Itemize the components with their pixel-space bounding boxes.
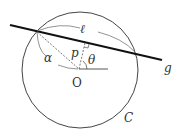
label-ell: ℓ [80,22,85,36]
label-origin: O [72,76,82,90]
arc-ell-left [37,26,80,31]
geometry-diagram: ℓ g p θ α O C [0,0,179,137]
label-theta: θ [88,53,96,67]
theta-arc [83,61,87,69]
label-alpha: α [44,51,52,65]
line-g [10,25,162,60]
label-p: p [71,46,79,60]
label-g: g [164,61,172,75]
label-circle-c: C [124,111,133,125]
